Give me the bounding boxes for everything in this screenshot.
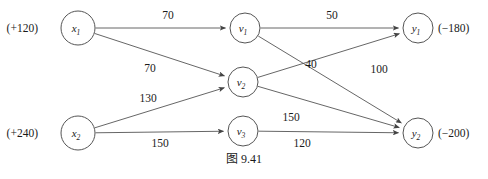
node-subscript-v2: 2 bbox=[242, 82, 246, 91]
edge-cost-x2-v2: 130 bbox=[139, 92, 157, 104]
edge-cost-x1-v1: 70 bbox=[162, 9, 174, 21]
edge-labels-layer: 70701301505040100150120 bbox=[139, 9, 388, 149]
supply-label-y1: (−180) bbox=[438, 22, 470, 35]
node-subscript-y2: 2 bbox=[417, 133, 421, 142]
node-v2: v2 bbox=[228, 67, 258, 97]
node-subscript-v1: 1 bbox=[244, 28, 248, 37]
node-x1: x1(+120) bbox=[7, 11, 95, 45]
network-diagram: x1(+120)x2(+240)v1v2v3y1(−180)y2(−200) 7… bbox=[0, 0, 488, 179]
edge-cost-x1-v2: 70 bbox=[144, 62, 156, 74]
edge-cost-v2-y1: 100 bbox=[370, 63, 388, 75]
figure-caption: 图 9.41 bbox=[226, 152, 262, 166]
nodes-layer: x1(+120)x2(+240)v1v2v3y1(−180)y2(−200) bbox=[7, 11, 470, 150]
edge-cost-v3-y2: 120 bbox=[293, 137, 311, 149]
edge-x2-v2 bbox=[95, 88, 225, 128]
edge-v3-y2 bbox=[258, 131, 398, 133]
figure-container: x1(+120)x2(+240)v1v2v3y1(−180)y2(−200) 7… bbox=[0, 0, 488, 179]
edge-cost-x2-v3: 150 bbox=[151, 137, 169, 149]
node-subscript-v3: 3 bbox=[241, 131, 246, 140]
node-y2: y2(−200) bbox=[403, 118, 470, 148]
edge-cost-v2-y2: 150 bbox=[282, 111, 300, 123]
supply-label-y2: (−200) bbox=[438, 127, 470, 140]
edge-cost-v1-y2: 40 bbox=[305, 58, 317, 70]
node-y1: y1(−180) bbox=[403, 13, 470, 43]
edge-x1-v2 bbox=[95, 33, 225, 75]
supply-label-x2: (+240) bbox=[7, 127, 39, 140]
edge-v2-y2 bbox=[258, 86, 399, 127]
node-v1: v1 bbox=[230, 13, 260, 43]
supply-label-x1: (+120) bbox=[7, 22, 39, 35]
node-subscript-y1: 1 bbox=[417, 28, 421, 37]
node-v3: v3 bbox=[228, 116, 258, 146]
edge-cost-v1-y1: 50 bbox=[326, 9, 338, 21]
edge-v1-y2 bbox=[258, 36, 401, 123]
node-x2: x2(+240) bbox=[7, 116, 95, 150]
edge-x2-v3 bbox=[95, 131, 223, 133]
node-subscript-x1: 1 bbox=[77, 28, 81, 37]
node-subscript-x2: 2 bbox=[77, 133, 81, 142]
